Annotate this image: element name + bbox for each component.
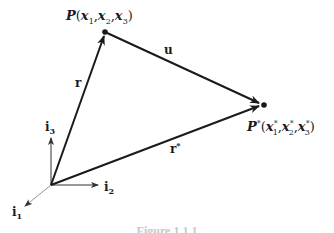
sub-2: 2 xyxy=(106,17,111,26)
unit-i3-sub: 3 xyxy=(50,126,56,136)
axis-i3-label: i3 xyxy=(45,120,55,136)
vector-r-arrow xyxy=(51,36,104,185)
vector-r-star-arrow xyxy=(51,106,259,185)
coord-x3: x xyxy=(115,8,123,23)
vector-u-label: u xyxy=(164,43,173,57)
star-mark: * xyxy=(176,140,180,150)
unit-i1-sub: 1 xyxy=(17,211,23,221)
star-mark: * xyxy=(306,119,310,128)
point-p-dot xyxy=(102,29,108,35)
point-p-star-name: P xyxy=(247,119,257,134)
vector-diagram: P(x1,x2,x3) P*(x*1,x*2,x*3) r u r* i3 i2… xyxy=(0,0,334,233)
coord-x1: x xyxy=(81,8,89,23)
vector-u-arrow xyxy=(105,32,259,103)
vector-r-star-label: r* xyxy=(170,140,181,156)
star-mark: * xyxy=(257,119,261,128)
sub-3: 3 xyxy=(305,128,310,137)
point-p-label: P(x1,x2,x3) xyxy=(66,8,133,26)
star-mark: * xyxy=(290,119,294,128)
star-mark: * xyxy=(274,119,278,128)
point-p-star-dot xyxy=(261,102,267,108)
sub-1: 1 xyxy=(273,128,278,137)
point-p-star-label: P*(x*1,x*2,x*3) xyxy=(247,119,315,137)
sub-1: 1 xyxy=(89,17,94,26)
sub-2: 2 xyxy=(289,128,294,137)
unit-i2-sub: 2 xyxy=(109,186,115,196)
coord-x2: x xyxy=(98,8,106,23)
point-p-name: P xyxy=(66,8,76,23)
figure-caption: Figure 1.1.1 xyxy=(0,224,334,233)
diagram-canvas xyxy=(0,0,334,233)
sub-3: 3 xyxy=(123,17,128,26)
vector-r-label: r xyxy=(75,76,81,90)
axis-i1-label: i1 xyxy=(12,205,22,221)
axis-i1-arrow xyxy=(25,185,51,206)
axis-i2-label: i2 xyxy=(104,180,114,196)
